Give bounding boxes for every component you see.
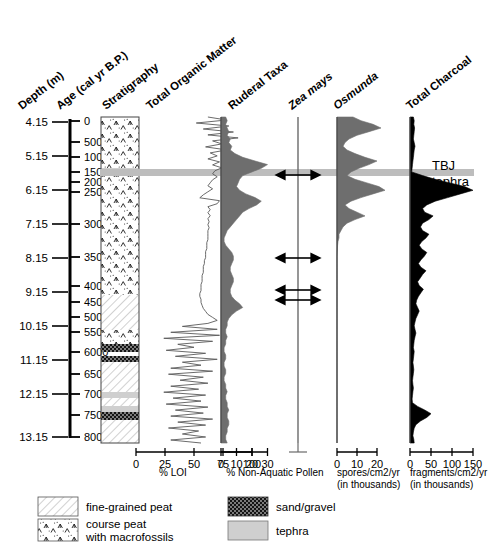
stratigraphy-unit [101, 412, 139, 420]
axis-unit-labels: % LOI % Non-Aquatic Pollen spores/cm2/yr… [159, 467, 488, 490]
header-ruderal-taxa: Ruderal Taxa [226, 58, 290, 112]
stratigraphy-unit [101, 406, 139, 412]
depth-tick-label: 10.15 [19, 320, 48, 332]
depth-tick-label: 5.15 [26, 150, 48, 162]
legend-label-sand-gravel: sand/gravel [276, 501, 335, 513]
axis-label-fragments-line1: fragments/cm2/yr [410, 467, 488, 478]
tbj-label-line1: TBJ [432, 158, 455, 173]
ruderal-taxa-silhouette [221, 117, 268, 443]
series-ruderal-taxa [221, 117, 268, 443]
axis-label-spores-line2: (in thousands) [337, 479, 400, 490]
series-zea-mays [284, 117, 312, 443]
legend-label-tephra: tephra [276, 525, 309, 537]
x-tick-label: 0 [218, 458, 224, 470]
stratigraphy-unit [101, 356, 139, 362]
depth-axis: 4.155.156.157.158.159.1510.1511.1512.151… [19, 116, 68, 443]
series-osmunda [337, 117, 385, 443]
stratigraphy-unit [101, 330, 139, 344]
tbj-label-line2: tephra [432, 174, 470, 189]
header-zea-mays: Zea mays [285, 70, 334, 112]
legend-label-course-peat-line1: course peat [86, 518, 147, 530]
legend-label-fine-grained-peat: fine-grained peat [86, 501, 173, 513]
x-axes: 0255075100010203001020050100150 [133, 443, 482, 470]
axis-label-fragments-line2: (in thousands) [410, 479, 473, 490]
stratigraphy-unit [101, 362, 139, 392]
tbj-tephra-label: TBJ tephra [432, 158, 470, 189]
depth-tick-label: 12.15 [19, 388, 48, 400]
depth-tick-label: 6.15 [26, 184, 48, 196]
axis-label-loi: % LOI [159, 467, 187, 478]
legend-swatch-course-peat [38, 519, 78, 541]
stratigraphy-unit [101, 344, 139, 352]
stratigraphy-unit [101, 117, 139, 168]
x-tick-label: 50 [188, 458, 200, 470]
stratigraphy-column [101, 117, 139, 443]
legend-swatch-fine-grained-peat [38, 497, 78, 516]
stratigraphy-unit [101, 398, 139, 406]
osmunda-silhouette [337, 117, 385, 443]
x-tick-label: 0 [133, 458, 139, 470]
header-total-organic-matter: Total Organic Matter [144, 33, 239, 111]
column-headers: Depth (m) Age (cal yr B.P.) Stratigraphy… [16, 33, 474, 112]
header-total-charcoal: Total Charcoal [404, 53, 474, 111]
axis-label-pollen: % Non-Aquatic Pollen [226, 467, 323, 478]
age-tick-label: 0 [84, 115, 90, 127]
depth-tick-label: 9.15 [26, 286, 48, 298]
depth-tick-label: 13.15 [19, 431, 48, 443]
stratigraphy-unit [101, 392, 139, 398]
stratigraphy-unit [101, 420, 139, 443]
legend-swatch-tephra [228, 521, 268, 540]
age-tick-label: 500 [84, 136, 102, 148]
stratigraphy-unit [101, 295, 139, 330]
legend: fine-grained peat course peat with macro… [38, 497, 335, 543]
axis-label-spores-line1: spores/cm2/yr [337, 467, 400, 478]
header-osmunda: Osmunda [331, 69, 381, 111]
depth-tick-label: 8.15 [26, 252, 48, 264]
depth-tick-label: 11.15 [20, 354, 48, 366]
legend-label-course-peat-line2: with macrofossils [85, 531, 174, 543]
stratigraphy-unit [101, 176, 139, 295]
depth-tick-label: 7.15 [26, 218, 48, 230]
depth-tick-label: 4.15 [26, 116, 48, 128]
legend-swatch-sand-gravel [228, 497, 268, 516]
stratigraphic-pollen-diagram: Depth (m) Age (cal yr B.P.) Stratigraphy… [0, 0, 494, 547]
